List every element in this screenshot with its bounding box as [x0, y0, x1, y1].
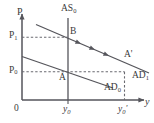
- ad1-curve-label: AD1: [132, 71, 149, 81]
- y0prime-tick-label: y0': [118, 105, 127, 115]
- ad1-sub: 1: [146, 74, 149, 81]
- shift-arrowheads: [75, 39, 110, 57]
- as0-sub: 0: [73, 7, 76, 14]
- p1-tick-label: P1: [9, 31, 18, 41]
- y0-tick-label: y0: [63, 105, 70, 115]
- point-b-label: B: [70, 27, 76, 37]
- origin-label: 0: [14, 104, 19, 114]
- ad0-curve-label: AD0: [104, 83, 121, 93]
- ad-as-diagram-figure: P y 0 P1 P0 y0 y0' AS0 AD0 AD1 A B A': [0, 0, 154, 123]
- p0-sub: 0: [14, 68, 17, 75]
- y0-sub: 0: [67, 108, 70, 115]
- output-axis-label: y: [145, 97, 149, 107]
- p1-sub: 1: [14, 34, 17, 41]
- ad0-base: AD: [104, 82, 118, 92]
- price-axis-label: P: [17, 7, 23, 17]
- point-a-label: A: [59, 73, 66, 83]
- y0prime-prime: ': [125, 103, 127, 113]
- point-aprime-label: A': [124, 50, 133, 60]
- ad1-base: AD: [132, 70, 146, 80]
- p0-tick-label: P0: [9, 66, 18, 76]
- diagram-canvas: [0, 0, 154, 123]
- ad0-sub: 0: [118, 86, 121, 93]
- as0-curve-label: AS0: [61, 4, 76, 14]
- as0-base: AS: [61, 3, 73, 13]
